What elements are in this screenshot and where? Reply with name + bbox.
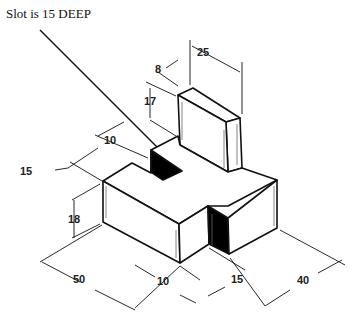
leader-line (40, 30, 160, 150)
dim-left-depth: 15 (20, 165, 32, 177)
technical-drawing: Slot is 15 DEEP 25 8 17 10 15 18 50 10 1… (0, 0, 358, 327)
dim-base-width: 40 (297, 274, 309, 286)
dim-notch-width: 10 (157, 275, 169, 287)
dim-upright-depth: 8 (155, 63, 161, 75)
dim-base-height: 18 (68, 213, 80, 225)
dim-upright-height: 17 (144, 95, 156, 107)
dim-notch-depth: 15 (231, 273, 243, 285)
dim-slot-width: 10 (104, 134, 116, 146)
dim-base-length: 50 (73, 273, 85, 285)
slot-depth-annotation: Slot is 15 DEEP (6, 6, 91, 22)
dim-upright-width: 25 (197, 46, 209, 58)
